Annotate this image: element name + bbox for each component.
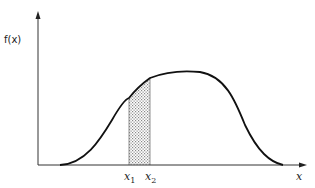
- y-axis-arrow-icon: [36, 11, 41, 19]
- x1-label: x1: [124, 170, 135, 185]
- y-axis-label: f(x): [4, 34, 21, 45]
- x2-label: x2: [145, 170, 156, 185]
- density-plot: [0, 0, 315, 188]
- density-curve: [60, 71, 283, 165]
- x-axis-label: x: [296, 170, 302, 183]
- shaded-area: [129, 78, 150, 165]
- x-axis-arrow-icon: [299, 163, 307, 168]
